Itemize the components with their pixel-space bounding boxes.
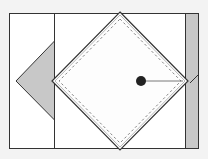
diagram-canvas (0, 0, 208, 159)
center-dot (136, 76, 146, 86)
